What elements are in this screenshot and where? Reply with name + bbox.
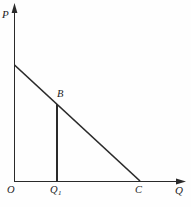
x-tick-label-q1: Q1 <box>50 185 61 196</box>
demand-curve-line <box>15 65 141 181</box>
curve-point-label-b: B <box>57 89 63 100</box>
x-intercept-label-c: C <box>135 185 142 196</box>
economics-demand-curve-figure: P Q O Q1 C B <box>0 0 191 207</box>
x-tick-label-q1-subscript: 1 <box>58 189 62 197</box>
origin-label: O <box>7 185 15 196</box>
x-tick-label-q1-main: Q <box>50 184 58 195</box>
y-axis-arrowhead-icon <box>12 3 18 13</box>
y-axis-label-p: P <box>2 9 9 20</box>
figure-canvas <box>0 0 191 207</box>
x-axis-label-q: Q <box>175 185 183 196</box>
